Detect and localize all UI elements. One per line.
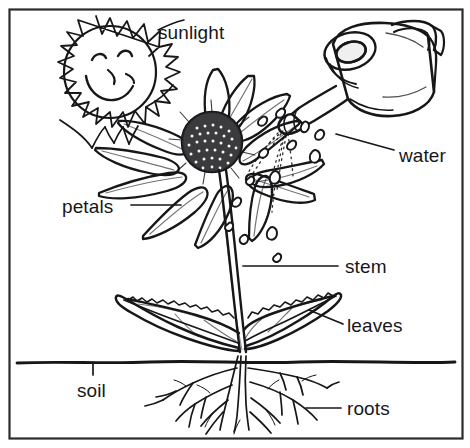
label-water: water bbox=[398, 145, 447, 166]
water-drop bbox=[267, 227, 277, 239]
label-sunlight: sunlight bbox=[158, 22, 225, 43]
water-drop bbox=[301, 122, 309, 133]
label-petals: petals bbox=[62, 196, 113, 217]
water-drop bbox=[315, 130, 324, 140]
water-drop bbox=[310, 150, 320, 162]
water-drop bbox=[270, 171, 280, 183]
plant-diagram-svg: sunlight water petals stem leaves soil r… bbox=[0, 0, 470, 448]
label-stem: stem bbox=[345, 256, 387, 277]
label-roots: roots bbox=[347, 398, 390, 419]
label-soil: soil bbox=[77, 380, 106, 401]
diagram-canvas: sunlight water petals stem leaves soil r… bbox=[0, 0, 470, 448]
water-drop bbox=[240, 235, 249, 244]
label-leaves: leaves bbox=[347, 315, 403, 336]
